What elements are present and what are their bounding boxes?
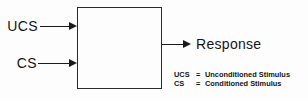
cs-input-label: CS [0, 56, 37, 70]
legend-term: Conditioned Stimulus [205, 80, 281, 89]
response-arrow-shaft [162, 44, 184, 45]
response-output-label: Response [196, 37, 261, 51]
legend-row: CS = Conditioned Stimulus [174, 80, 290, 89]
cs-arrow-head [69, 59, 77, 67]
ucs-arrow-icon [40, 22, 77, 31]
legend: UCS = Unconditioned Stimulus CS = Condit… [174, 71, 290, 88]
response-arrow-icon [162, 40, 191, 49]
response-arrow-head [183, 40, 191, 48]
process-box [77, 7, 162, 89]
legend-abbr: CS [174, 80, 196, 89]
legend-equals: = [196, 80, 205, 89]
cs-arrow-shaft [38, 63, 70, 64]
ucs-input-label: UCS [0, 19, 38, 33]
ucs-arrow-head [69, 22, 77, 30]
cs-arrow-icon [38, 59, 77, 68]
conditioning-diagram: UCS CS Response UCS = Unconditioned Stim… [0, 0, 308, 101]
ucs-arrow-shaft [40, 26, 70, 27]
